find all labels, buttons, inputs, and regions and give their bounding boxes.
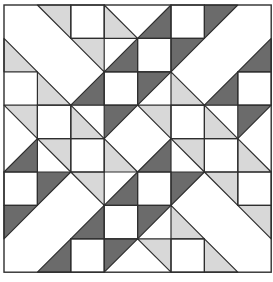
- quilt-pattern: [0, 0, 273, 282]
- caption: [0, 274, 273, 282]
